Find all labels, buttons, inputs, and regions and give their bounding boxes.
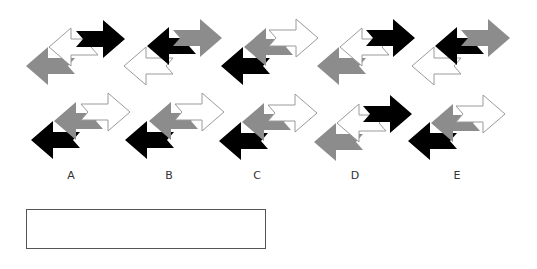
gray-right-arrow-icon xyxy=(460,18,511,58)
option-label-d[interactable]: D xyxy=(351,169,359,182)
white-right-arrow-icon xyxy=(455,94,506,134)
white-right-arrow-icon xyxy=(268,18,319,58)
gray-right-arrow-icon xyxy=(172,18,223,58)
option-label-b[interactable]: B xyxy=(165,169,173,182)
option-label-e[interactable]: E xyxy=(454,169,461,182)
answer-input-box[interactable] xyxy=(26,209,266,249)
black-right-arrow-icon xyxy=(75,19,126,59)
black-right-arrow-icon xyxy=(365,18,416,58)
black-right-arrow-icon xyxy=(362,94,413,134)
option-label-a[interactable]: A xyxy=(67,169,75,182)
option-label-c[interactable]: C xyxy=(253,169,261,182)
white-right-arrow-icon xyxy=(267,93,318,133)
puzzle-stage: ABCDE xyxy=(0,0,537,269)
